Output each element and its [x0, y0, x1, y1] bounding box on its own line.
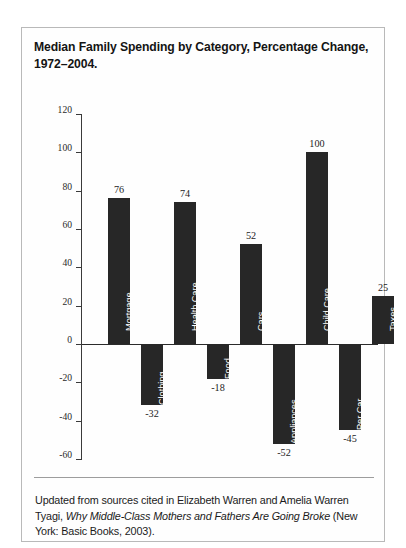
- footnote-book-title: Why Middle-Class Mothers and Fathers Are…: [66, 510, 330, 522]
- y-axis-tick-label: 20: [32, 301, 72, 302]
- plot-area: 120100806040200-20-40-60 Mortgage76Cloth…: [22, 28, 386, 488]
- y-axis-tick-label-wrap: -20: [24, 382, 72, 383]
- bar-taxes: Taxes: [372, 296, 394, 344]
- bar-mortgage: Mortgage: [108, 198, 130, 344]
- bar-value-label: -32: [129, 408, 175, 419]
- y-axis-tick-label-wrap: -40: [24, 421, 72, 422]
- bar-category-label: Food: [207, 344, 229, 379]
- bar-category-label: Per Car: [339, 344, 361, 430]
- bar-value-label: 76: [96, 184, 142, 195]
- y-axis-tick-label: 100: [32, 147, 72, 148]
- y-axis-tick-label-wrap: 60: [24, 229, 72, 230]
- y-axis-tick-label-wrap: 120: [24, 114, 72, 115]
- bar-value-label: 74: [162, 188, 208, 199]
- bar-category-label: Mortgage: [108, 198, 130, 344]
- figure-footnote: Updated from sources cited in Elizabeth …: [35, 493, 369, 540]
- y-axis-tick-label-wrap: -60: [24, 459, 72, 460]
- y-axis-tick: [76, 344, 82, 345]
- bar-category-label: Taxes: [372, 296, 394, 344]
- y-axis-tick-label: 80: [32, 186, 72, 187]
- bar-appliances: Appliances: [273, 344, 295, 444]
- bar-food: Food: [207, 344, 229, 379]
- bar-child-care: Child Care: [306, 152, 328, 344]
- y-axis-tick: [76, 459, 82, 460]
- figure-panel: Median Family Spending by Category, Perc…: [21, 27, 385, 542]
- bar-category-label: Cars: [240, 244, 262, 344]
- y-axis-tick: [76, 306, 82, 307]
- y-axis-tick-label: -60: [32, 454, 72, 455]
- bar-cars: Cars: [240, 244, 262, 344]
- y-axis-tick: [76, 152, 82, 153]
- bar-value-label: -18: [195, 382, 241, 393]
- y-axis-tick-label-wrap: 100: [24, 152, 72, 153]
- bar-per-car: Per Car: [339, 344, 361, 430]
- bar-clothing: Clothing: [141, 344, 163, 405]
- y-axis-tick-label-wrap: 20: [24, 306, 72, 307]
- y-axis-tick-label-wrap: 40: [24, 267, 72, 268]
- bar-category-label: Health Care: [174, 202, 196, 344]
- y-axis-tick: [76, 191, 82, 192]
- y-axis-tick-label: 120: [32, 109, 72, 110]
- zero-baseline: [81, 344, 378, 345]
- y-axis-tick: [76, 229, 82, 230]
- y-axis-tick-label: 0: [32, 339, 72, 340]
- y-axis-tick: [76, 382, 82, 383]
- y-axis-tick-label-wrap: 0: [24, 344, 72, 345]
- bar-value-label: -45: [327, 433, 373, 444]
- y-axis-tick: [76, 267, 82, 268]
- y-axis-tick-label: 60: [32, 224, 72, 225]
- bar-value-label: 100: [294, 138, 340, 149]
- y-axis-tick-label-wrap: 80: [24, 191, 72, 192]
- y-axis-line: [81, 114, 82, 459]
- footnote-divider: [34, 477, 374, 478]
- bar-health-care: Health Care: [174, 202, 196, 344]
- bar-category-label: Child Care: [306, 152, 328, 344]
- y-axis-tick: [76, 114, 82, 115]
- y-axis-tick-label: -20: [32, 377, 72, 378]
- bar-category-label: Clothing: [141, 344, 163, 405]
- bar-value-label: 25: [360, 282, 406, 293]
- bar-category-label: Appliances: [273, 344, 295, 444]
- y-axis-tick-label: -40: [32, 416, 72, 417]
- bar-value-label: -52: [261, 447, 307, 458]
- bar-value-label: 52: [228, 230, 274, 241]
- y-axis-tick: [76, 421, 82, 422]
- y-axis-tick-label: 40: [32, 262, 72, 263]
